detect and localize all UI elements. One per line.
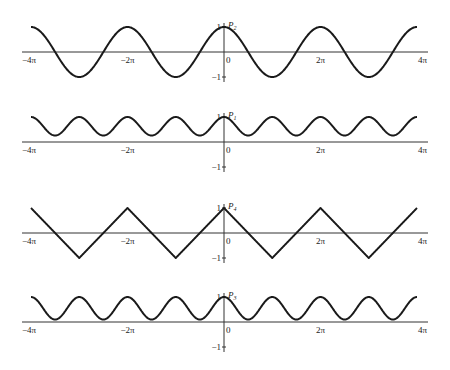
y-tick-label: −1 (211, 72, 221, 82)
chart-panel-p4: 1−1−4π−2π02π4πP4 (22, 201, 428, 263)
x-tick-label: −4π (22, 145, 37, 155)
x-tick-label: −2π (120, 55, 135, 65)
x-tick-label: 2π (316, 145, 326, 155)
x-tick-label: −2π (120, 145, 135, 155)
x-tick-label: 2π (316, 236, 326, 246)
chart-panel-p1: 1−1−4π−2π02π4πP1 (22, 110, 428, 172)
y-tick-label: −1 (211, 253, 221, 263)
x-tick-label: 4π (418, 325, 428, 335)
x-tick-label: 2π (316, 325, 326, 335)
x-tick-label: −4π (22, 55, 37, 65)
x-tick-label: −2π (120, 236, 135, 246)
x-tick-label: 0 (226, 325, 231, 335)
x-tick-label: 2π (316, 55, 326, 65)
x-tick-label: 0 (226, 236, 231, 246)
x-tick-label: 4π (418, 145, 428, 155)
x-tick-label: 0 (226, 55, 231, 65)
x-tick-label: 4π (418, 236, 428, 246)
chart-panel-p2: 1−1−4π−2π02π4πP2 (22, 20, 428, 82)
x-tick-label: −4π (22, 236, 37, 246)
x-tick-label: −4π (22, 325, 37, 335)
y-tick-label: −1 (211, 162, 221, 172)
panel-label: P4 (227, 201, 237, 212)
x-tick-label: 4π (418, 55, 428, 65)
x-tick-label: −2π (120, 325, 135, 335)
x-tick-label: 0 (226, 145, 231, 155)
chart-panel-p3: 1−1−4π−2π02π4πP3 (22, 290, 428, 352)
y-tick-label: −1 (211, 342, 221, 352)
stacked-waveform-charts: 1−1−4π−2π02π4πP21−1−4π−2π02π4πP11−1−4π−2… (0, 0, 450, 370)
